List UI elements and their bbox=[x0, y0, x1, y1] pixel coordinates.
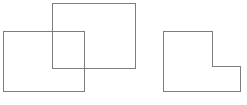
overlapping-rectangles-group bbox=[3, 3, 135, 91]
l-shape bbox=[163, 31, 240, 91]
l-shaped-polygon-group bbox=[163, 31, 240, 91]
figure-canvas bbox=[0, 0, 247, 105]
lower-left-rectangle bbox=[3, 31, 84, 91]
upper-right-rectangle bbox=[52, 3, 135, 68]
figure-svg bbox=[0, 0, 247, 105]
